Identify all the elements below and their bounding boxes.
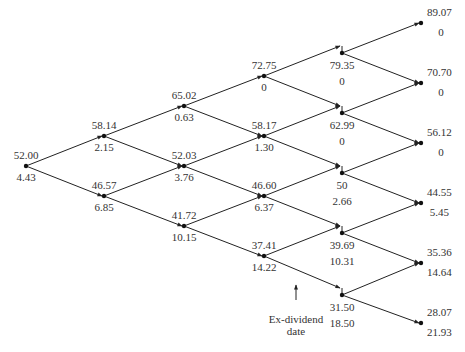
node-price: 50 (337, 179, 348, 191)
tree-node-dot (419, 81, 423, 85)
node-option-value: 2.66 (332, 195, 351, 207)
node-price: 31.50 (330, 301, 355, 313)
node-price: 35.36 (427, 246, 452, 258)
tree-edge (342, 143, 419, 173)
node-option-value: 0 (339, 75, 345, 87)
tree-edge (264, 196, 340, 226)
node-price: 89.07 (427, 6, 452, 18)
tree-node-dot (340, 51, 344, 55)
tree-nodes (24, 21, 423, 325)
node-option-value: 0 (438, 86, 444, 98)
tree-edge (342, 83, 419, 113)
tree-node-dot (262, 194, 266, 198)
node-price: 72.75 (252, 59, 277, 71)
node-option-value: 2.15 (94, 141, 113, 153)
tree-node-dot (262, 254, 266, 258)
tree-node-dot (182, 164, 186, 168)
tree-edge (104, 136, 182, 166)
node-price: 58.17 (252, 119, 277, 131)
tree-edge (342, 203, 419, 233)
node-price: 46.60 (252, 179, 277, 191)
tree-node-dot (340, 111, 344, 115)
node-option-value: 4.43 (16, 171, 35, 183)
tree-node-dot (419, 321, 423, 325)
binomial-tree-diagram (0, 0, 465, 352)
node-option-value: 21.93 (427, 326, 452, 338)
node-option-value: 18.50 (330, 317, 355, 329)
node-price: 46.57 (92, 179, 117, 191)
node-option-value: 6.85 (94, 201, 113, 213)
tree-node-dot (419, 261, 423, 265)
node-price: 62.99 (330, 119, 355, 131)
node-price: 52.00 (14, 149, 39, 161)
tree-node-dot (419, 141, 423, 145)
node-option-value: 10.15 (172, 231, 197, 243)
node-option-value: 14.64 (427, 266, 452, 278)
tree-node-dot (419, 21, 423, 25)
node-option-value: 0 (438, 26, 444, 38)
tree-node-dot (182, 104, 186, 108)
node-price: 39.69 (330, 239, 355, 251)
tree-edge (184, 106, 262, 136)
tree-node-dot (182, 224, 186, 228)
tree-node-dot (340, 293, 344, 297)
node-price: 44.55 (427, 186, 452, 198)
tree-node-dot (340, 171, 344, 175)
node-option-value: 0 (261, 81, 267, 93)
node-price: 65.02 (172, 89, 197, 101)
node-price: 56.12 (427, 126, 452, 138)
node-price: 41.72 (172, 209, 197, 221)
node-option-value: 5.45 (430, 206, 449, 218)
tree-edge (184, 166, 262, 196)
ex-dividend-label: Ex-dividend date (269, 313, 323, 337)
node-option-value: 3.76 (174, 171, 193, 183)
node-option-value: 1.30 (254, 141, 273, 153)
tree-edges (26, 23, 419, 323)
tree-edge (342, 23, 419, 53)
tree-edge (342, 263, 419, 295)
tree-edge (264, 76, 340, 106)
tree-node-dot (340, 231, 344, 235)
node-option-value: 6.37 (254, 201, 273, 213)
node-price: 37.41 (252, 239, 277, 251)
node-price: 79.35 (330, 59, 355, 71)
node-option-value: 10.31 (330, 255, 355, 267)
tree-node-dot (419, 201, 423, 205)
node-option-value: 0 (339, 135, 345, 147)
tree-edge (104, 196, 182, 226)
node-option-value: 14.22 (252, 261, 277, 273)
node-price: 70.70 (427, 66, 452, 78)
tree-node-dot (102, 194, 106, 198)
node-option-value: 0 (438, 146, 444, 158)
tree-node-dot (262, 74, 266, 78)
tree-node-dot (24, 164, 28, 168)
tree-node-dot (102, 134, 106, 138)
node-option-value: 0.63 (174, 111, 193, 123)
node-price: 28.07 (427, 306, 452, 318)
tree-edge (342, 173, 419, 203)
ex-dividend-text: Ex-dividend (269, 313, 323, 325)
date-text: date (269, 325, 323, 337)
tree-edge (264, 136, 340, 166)
node-price: 58.14 (92, 119, 117, 131)
node-price: 52.03 (172, 149, 197, 161)
tree-node-dot (262, 134, 266, 138)
tree-edge (26, 166, 102, 196)
